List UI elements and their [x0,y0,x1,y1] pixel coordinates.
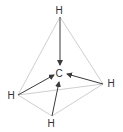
edge-left-right [18,84,103,95]
edge-top-right [60,17,103,84]
edge-left-bottom [18,95,52,116]
center-atom-label: C [55,68,62,79]
arrow-bottom-to-center [52,82,59,116]
atom-label-top: H [55,5,62,16]
bond-arrows [18,17,103,116]
atom-label-left: H [7,90,14,101]
atom-label-bottom: H [47,118,54,129]
edge-right-bottom [52,84,103,116]
atom-label-right: H [107,78,114,89]
tetrahedral-molecule-diagram: C HHHH [0,0,123,132]
